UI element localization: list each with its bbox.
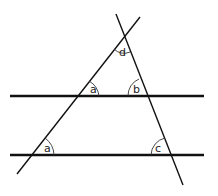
angle-label-a-lower: a: [44, 142, 51, 155]
angle-arcs: [45, 49, 165, 155]
angle-label-a-upper: a: [90, 83, 97, 96]
angle-label-c: c: [155, 142, 161, 155]
geometry-diagram: d a b a c: [0, 0, 218, 196]
angle-label-d: d: [119, 46, 126, 59]
right-transversal: [116, 14, 183, 185]
angle-labels: d a b a c: [44, 46, 161, 155]
transversals: [17, 14, 183, 185]
angle-label-b: b: [133, 83, 140, 96]
